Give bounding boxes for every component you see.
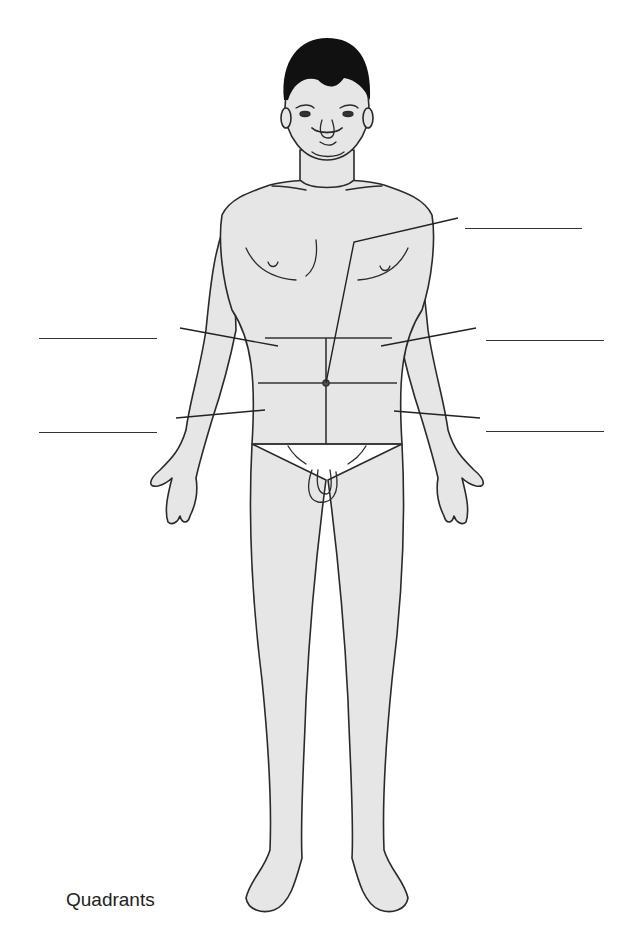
figure-caption: Quadrants xyxy=(66,889,155,911)
label-blank-umbilicus[interactable] xyxy=(465,228,582,229)
label-blank-upper-left[interactable] xyxy=(39,338,157,339)
label-blank-upper-right[interactable] xyxy=(486,340,604,341)
label-blank-lower-right[interactable] xyxy=(486,431,604,432)
left-leg xyxy=(246,444,326,912)
torso xyxy=(220,180,433,444)
anatomical-figure xyxy=(0,0,635,942)
right-leg xyxy=(328,444,408,912)
label-blank-lower-left[interactable] xyxy=(39,432,157,433)
